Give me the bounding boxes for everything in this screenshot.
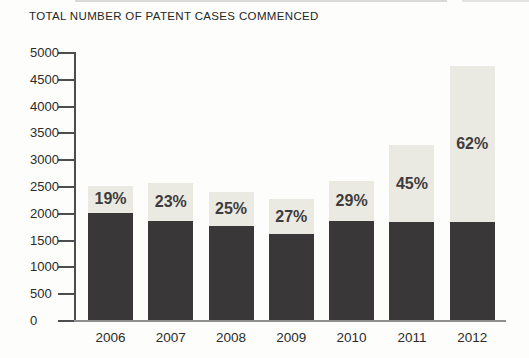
x-axis-label-2009: 2009 xyxy=(261,330,321,345)
bar-group-2009: 27% xyxy=(269,199,314,320)
y-axis-label-3000: 3000 xyxy=(30,153,59,167)
bar-group-2008: 25% xyxy=(209,192,254,320)
y-axis-tick-5000 xyxy=(58,52,76,54)
bar-dark-segment-2008 xyxy=(209,226,254,320)
y-axis-tick-3500 xyxy=(58,132,76,134)
bar-group-2011: 45% xyxy=(389,145,434,320)
bar-group-2006: 19% xyxy=(88,186,133,320)
y-axis-tick-1000 xyxy=(58,266,76,268)
percent-label-2012: 62% xyxy=(456,135,488,153)
y-axis-label-0: 0 xyxy=(30,314,37,328)
bar-group-2012: 62% xyxy=(450,66,495,320)
bar-dark-segment-2012 xyxy=(450,222,495,320)
y-axis-tick-1500 xyxy=(58,240,76,242)
percent-label-2006: 19% xyxy=(94,190,126,208)
percent-label-2011: 45% xyxy=(396,175,428,193)
x-axis-label-2012: 2012 xyxy=(442,330,502,345)
bar-light-segment-2009: 27% xyxy=(269,199,314,234)
y-axis-label-3500: 3500 xyxy=(30,126,59,140)
percent-label-2010: 29% xyxy=(336,192,368,210)
y-axis-tick-4500 xyxy=(58,79,76,81)
bar-light-segment-2007: 23% xyxy=(148,183,193,221)
y-axis-label-2500: 2500 xyxy=(30,180,59,194)
bar-group-2007: 23% xyxy=(148,183,193,320)
bar-dark-segment-2007 xyxy=(148,221,193,320)
y-axis-label-1000: 1000 xyxy=(30,260,59,274)
x-axis-baseline xyxy=(74,320,507,322)
bar-group-2010: 29% xyxy=(329,181,374,320)
x-axis-label-2006: 2006 xyxy=(81,330,141,345)
y-axis-tick-4000 xyxy=(58,106,76,108)
y-axis-tick-2500 xyxy=(58,186,76,188)
bar-dark-segment-2009 xyxy=(269,234,314,320)
y-axis-label-1500: 1500 xyxy=(30,234,59,248)
y-axis-tick-2000 xyxy=(58,213,76,215)
x-axis-label-2010: 2010 xyxy=(322,330,382,345)
percent-label-2008: 25% xyxy=(215,200,247,218)
bar-dark-segment-2006 xyxy=(88,213,133,320)
x-axis-label-2011: 2011 xyxy=(382,330,442,345)
plot-area: 0500100015002000250030003500400045005000… xyxy=(0,0,529,358)
bar-light-segment-2010: 29% xyxy=(329,181,374,221)
x-axis-label-2007: 2007 xyxy=(141,330,201,345)
bar-light-segment-2008: 25% xyxy=(209,192,254,226)
y-axis-label-500: 500 xyxy=(30,287,52,301)
percent-label-2007: 23% xyxy=(155,193,187,211)
bar-light-segment-2011: 45% xyxy=(389,145,434,222)
y-axis-label-5000: 5000 xyxy=(30,46,59,60)
y-axis-label-4000: 4000 xyxy=(30,100,59,114)
y-axis-tick-3000 xyxy=(58,159,76,161)
y-axis-label-4500: 4500 xyxy=(30,73,59,87)
y-axis-tick-500 xyxy=(58,293,76,295)
x-axis-label-2008: 2008 xyxy=(201,330,261,345)
y-axis-label-2000: 2000 xyxy=(30,207,59,221)
percent-label-2009: 27% xyxy=(275,208,307,226)
bar-dark-segment-2010 xyxy=(329,221,374,320)
bar-light-segment-2012: 62% xyxy=(450,66,495,221)
bar-light-segment-2006: 19% xyxy=(88,186,133,213)
bar-dark-segment-2011 xyxy=(389,222,434,320)
